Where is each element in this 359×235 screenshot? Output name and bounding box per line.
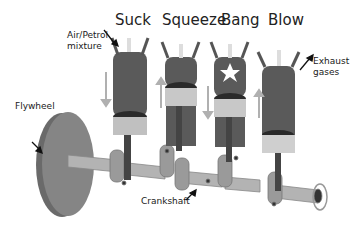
- stage-label-blow: Blow: [268, 11, 304, 29]
- intake-label-line1: Air/Petrol: [67, 30, 108, 41]
- crankshaft-label: Crankshaft: [141, 196, 190, 207]
- intake-label-line2: mixture: [67, 41, 108, 52]
- stage-label-squeeze: Squeeze: [162, 11, 226, 29]
- flywheel-label: Flywheel: [15, 101, 55, 112]
- stage-label-bang: Bang: [221, 11, 260, 29]
- exhaust-label-line2: gases: [313, 67, 349, 78]
- stage-label-suck: Suck: [115, 11, 151, 29]
- cylinder-bang: [211, 42, 248, 162]
- exhaust-label: Exhaust gases: [313, 56, 349, 78]
- cylinder-blow: [258, 50, 299, 191]
- exhaust-label-line1: Exhaust: [313, 56, 349, 67]
- cylinder-squeeze: [162, 42, 199, 151]
- intake-label: Air/Petrol mixture: [67, 30, 108, 52]
- crankshaft: [68, 155, 327, 210]
